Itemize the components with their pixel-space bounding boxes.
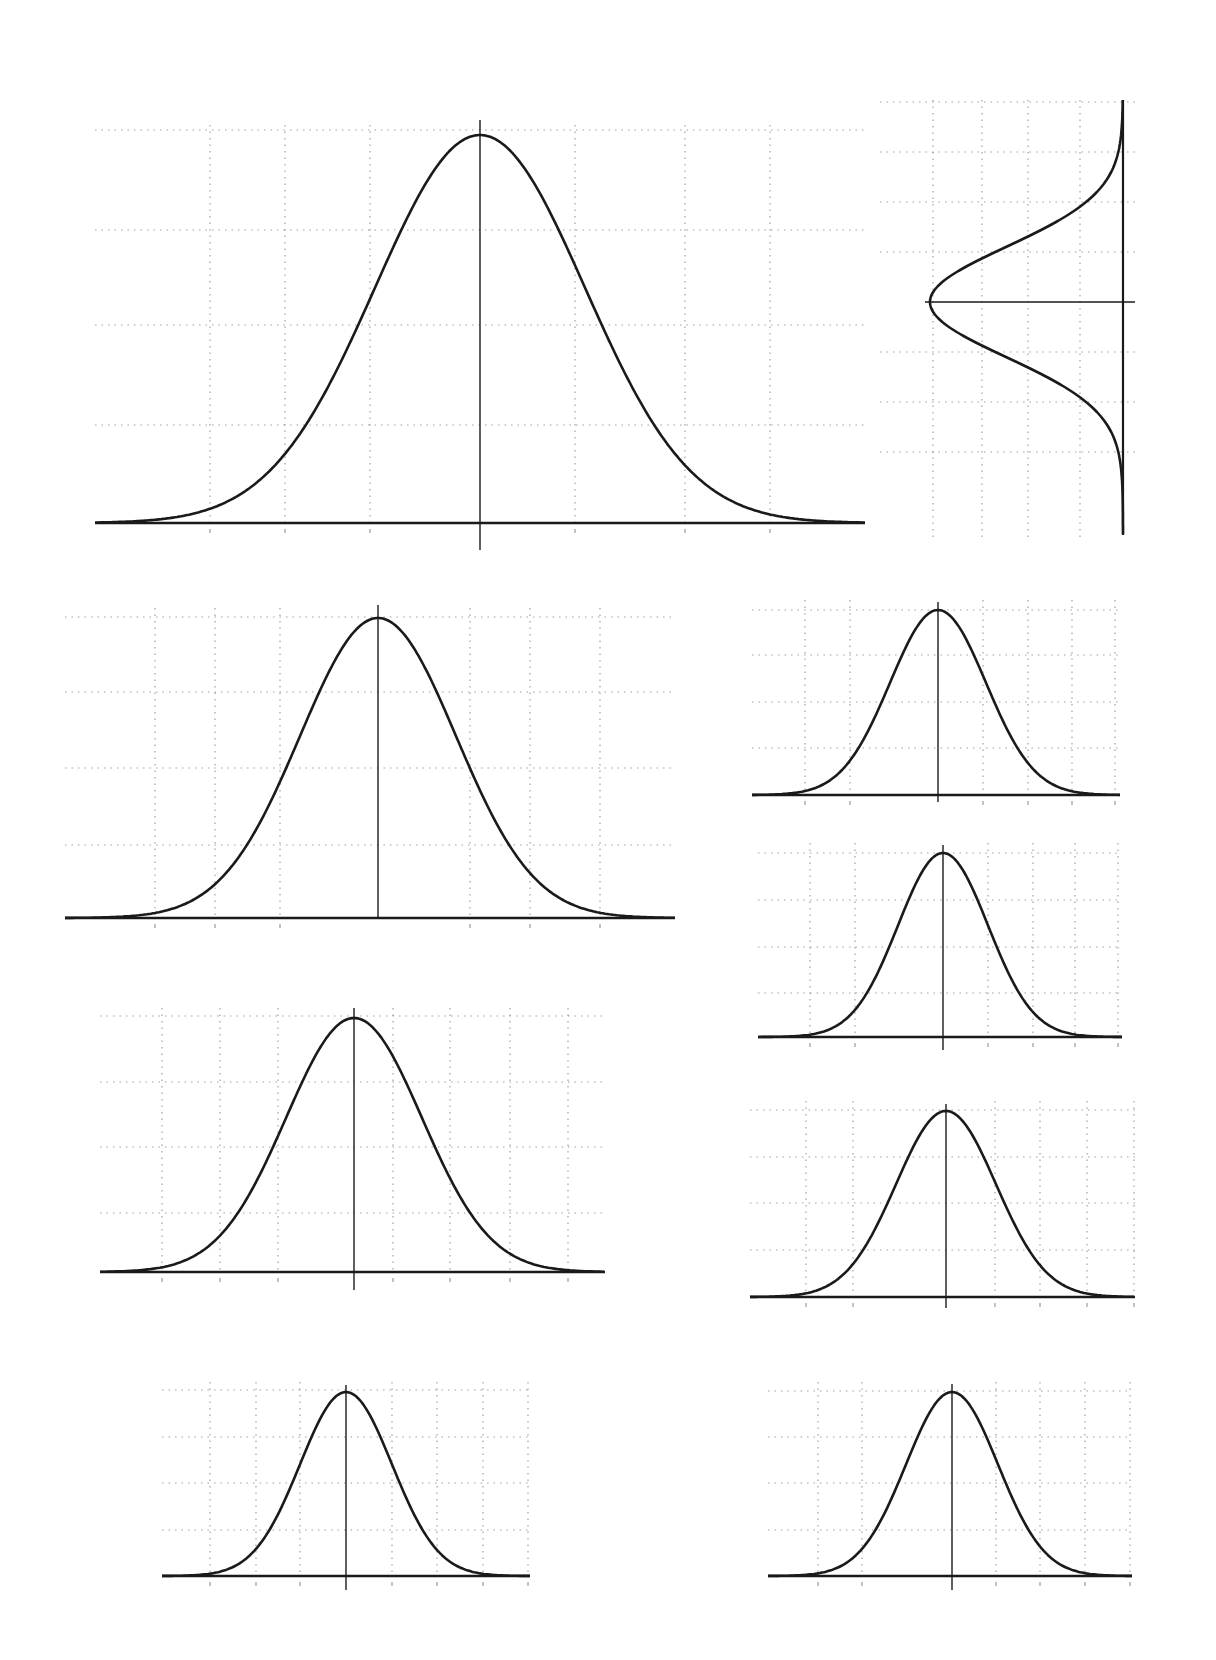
bell-curve-panel-small-right-2 xyxy=(758,843,1122,1050)
bell-curve-panel-small-right-1 xyxy=(752,600,1120,805)
normal-curve xyxy=(930,100,1123,534)
dotted-grid xyxy=(752,600,1120,795)
dotted-grid xyxy=(880,100,1135,540)
figure-canvas xyxy=(0,0,1216,1660)
dotted-grid xyxy=(100,1008,605,1272)
dotted-grid xyxy=(768,1382,1132,1576)
bell-curve-panel-small-right-3 xyxy=(750,1101,1135,1308)
figure-svg xyxy=(0,0,1216,1660)
dotted-grid xyxy=(758,843,1122,1037)
dotted-grid xyxy=(750,1101,1135,1297)
bell-curve-panel-small-left-bottom xyxy=(162,1382,530,1590)
normal-curve xyxy=(750,1111,1134,1297)
normal-curve xyxy=(758,853,1122,1037)
bell-curve-panel-medium-left-2 xyxy=(100,1008,605,1290)
bell-curve-panel-rotated-right xyxy=(880,100,1135,540)
bell-curve-panel-large-top xyxy=(95,120,865,550)
normal-curve xyxy=(100,1018,604,1272)
dotted-grid xyxy=(65,608,675,918)
bell-curve-panel-medium-left-1 xyxy=(65,605,675,928)
normal-curve xyxy=(768,1392,1132,1576)
bell-curve-panel-small-right-bottom xyxy=(768,1382,1132,1590)
